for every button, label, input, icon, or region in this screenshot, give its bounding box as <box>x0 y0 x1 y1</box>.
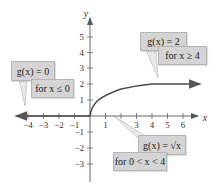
middle-condition-box: for 0 < x < 4 <box>113 152 167 171</box>
y-tick-label: 1 <box>80 95 85 105</box>
x-axis-label: x <box>202 112 208 123</box>
left-condition-box: for x ≤ 0 <box>31 79 74 98</box>
left-formula: g(x) = 0 <box>17 66 49 77</box>
left-condition: for x ≤ 0 <box>35 83 70 94</box>
sqrt-segment <box>90 84 152 116</box>
y-tick-label: 3 <box>80 63 85 73</box>
x-tick-label: 4 <box>150 120 155 130</box>
x-tick-label: 6 <box>181 120 186 130</box>
y-tick-label: −2 <box>74 143 84 153</box>
y-tick-label: 4 <box>80 48 85 58</box>
x-tick-label: −4 <box>23 120 33 130</box>
y-tick-label: −1 <box>74 127 84 137</box>
right-condition: for x ≥ 4 <box>165 50 200 61</box>
y-axis: 5 4 3 2 1 −1 −2 −3 y <box>74 8 93 182</box>
y-tick-label: −3 <box>74 159 84 169</box>
x-tick-label: 5 <box>165 120 170 130</box>
x-tick-label: 3 <box>134 120 139 130</box>
y-axis-label: y <box>83 8 89 19</box>
x-tick-label: −2 <box>54 120 64 130</box>
right-condition-box: for x ≥ 4 <box>158 46 207 65</box>
middle-condition: for 0 < x < 4 <box>115 156 165 167</box>
x-tick-label: −3 <box>39 120 49 130</box>
y-tick-label: 2 <box>80 79 85 89</box>
x-axis: −4 −3 −2 −1 1 3 4 5 6 x <box>18 112 208 130</box>
y-tick-label: 5 <box>80 32 85 42</box>
left-formula-box: g(x) = 0 <box>11 61 55 81</box>
x-tick-label: 1 <box>103 120 108 130</box>
middle-formula: g(x) = √x <box>143 140 181 151</box>
